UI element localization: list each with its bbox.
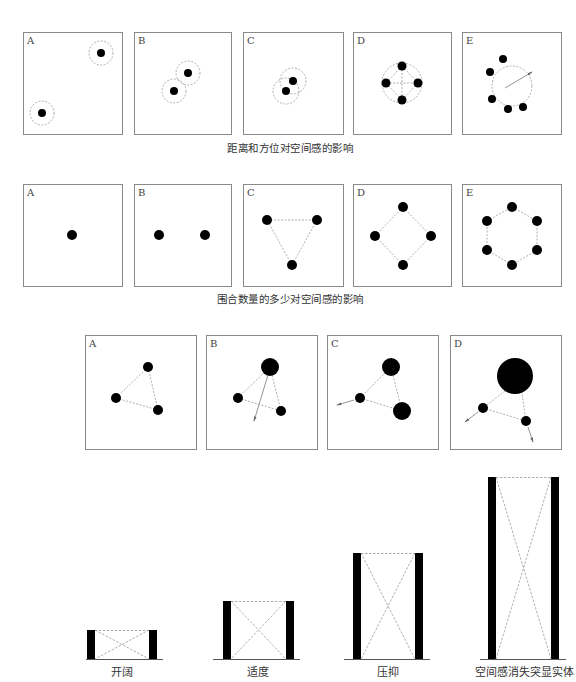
enclosure-panel-a: A — [24, 185, 123, 287]
element-dot — [507, 260, 517, 270]
distance-panel-d: D — [354, 33, 452, 135]
left-pillar — [223, 601, 231, 659]
element-dot — [521, 416, 531, 426]
caption-enclosure-count: 围合数量的多少对空间感的影响 — [217, 291, 364, 306]
element-dot — [478, 403, 488, 413]
element-dot — [261, 358, 279, 376]
element-dot — [486, 68, 494, 76]
panel-label: A — [88, 338, 97, 349]
panel-label: B — [138, 35, 145, 46]
element-dot — [170, 87, 178, 95]
element-dot — [398, 260, 408, 270]
element-dot — [143, 362, 153, 372]
element-dot — [233, 393, 243, 403]
right-pillar — [415, 553, 423, 659]
element-dot — [499, 55, 507, 63]
panel-label: A — [26, 187, 35, 198]
caption-distance-orientation: 距离和方位对空间感的影响 — [227, 140, 353, 155]
element-dot — [111, 393, 121, 403]
element-dot — [398, 62, 407, 71]
element-dot — [532, 216, 542, 226]
panel-frame — [463, 185, 562, 287]
panel-frame — [86, 336, 197, 450]
element-dot — [97, 49, 105, 57]
right-pillar — [551, 477, 559, 659]
element-dot — [414, 79, 423, 88]
element-dot — [184, 69, 192, 77]
element-dot — [398, 96, 407, 105]
enclosure-panel-e: E — [463, 185, 562, 287]
panel-frame — [354, 185, 452, 287]
panel-frame — [24, 33, 123, 135]
panel-label: C — [247, 35, 255, 46]
panel-label: B — [138, 187, 145, 198]
ratio-label: 开阔 — [111, 666, 133, 679]
panel-label: C — [331, 338, 339, 349]
element-dot — [382, 358, 400, 376]
space-perception-diagram: ABCDE ABCDE ABCD 开阔适度压抑空间感消失突显实体 — [0, 0, 576, 682]
element-dot — [38, 109, 46, 117]
element-dot — [426, 231, 436, 241]
ratio-example-2: 适度 — [213, 601, 300, 679]
element-dot — [200, 230, 210, 240]
element-dot — [370, 231, 380, 241]
panel-label: A — [26, 35, 35, 46]
element-dot — [282, 87, 290, 95]
ratio-example-1: 开阔 — [86, 630, 163, 679]
left-pillar — [353, 553, 361, 659]
element-dot — [312, 215, 322, 225]
panel-frame — [135, 185, 232, 287]
left-pillar — [488, 477, 496, 659]
right-pillar — [149, 630, 157, 659]
element-dot — [287, 260, 297, 270]
panel-label: C — [247, 187, 255, 198]
element-dot — [532, 245, 542, 255]
panel-label: E — [466, 187, 473, 198]
element-dot — [355, 393, 365, 403]
distance-panel-a: A — [24, 33, 123, 135]
element-dot — [262, 215, 272, 225]
figure-height-width-ratio: 开阔适度压抑空间感消失突显实体 — [86, 477, 574, 679]
distance-panel-b: B — [135, 33, 232, 135]
right-pillar — [286, 601, 294, 659]
panel-label: D — [454, 338, 462, 349]
panel-label: D — [357, 187, 365, 198]
element-dot — [398, 202, 408, 212]
enclosure-panel-d: D — [354, 185, 452, 287]
scale-panel-d: D — [451, 336, 562, 450]
scale-panel-a: A — [86, 336, 197, 450]
ratio-label: 空间感消失突显实体 — [475, 665, 574, 679]
panel-frame — [451, 336, 562, 450]
distance-panel-c: C — [244, 33, 344, 135]
panel-frame — [244, 185, 344, 287]
panel-frame — [207, 336, 318, 450]
diagonal-line — [231, 601, 286, 659]
element-dot — [504, 105, 512, 113]
left-pillar — [87, 630, 95, 659]
panel-label: E — [466, 35, 473, 46]
element-dot — [154, 230, 164, 240]
element-dot — [67, 230, 77, 240]
panel-frame — [354, 33, 452, 135]
figure-enclosure-count: ABCDE — [24, 185, 562, 287]
distance-panel-e: E — [463, 33, 562, 135]
element-dot — [497, 358, 533, 394]
ratio-label: 压抑 — [377, 665, 399, 679]
diagonal-line — [231, 601, 286, 659]
figure-scale-relationship: ABCD — [86, 336, 562, 450]
enclosure-panel-c: C — [244, 185, 344, 287]
element-dot — [153, 405, 163, 415]
element-dot — [488, 95, 496, 103]
panel-label: B — [210, 338, 217, 349]
scale-panel-b: B — [207, 336, 318, 450]
element-dot — [482, 216, 492, 226]
scale-panel-c: C — [328, 336, 439, 450]
ratio-label: 适度 — [247, 665, 269, 679]
ratio-example-4: 空间感消失突显实体 — [475, 477, 574, 679]
panel-label: D — [357, 35, 365, 46]
element-dot — [519, 103, 527, 111]
enclosure-panel-b: B — [135, 185, 232, 287]
panel-frame — [328, 336, 439, 450]
element-dot — [276, 406, 286, 416]
element-dot — [507, 202, 517, 212]
